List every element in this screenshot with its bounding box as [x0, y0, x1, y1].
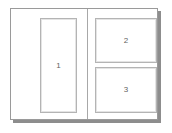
column-divider [87, 9, 88, 119]
layout-outer-frame[interactable]: 1 2 3 [10, 8, 158, 120]
layout-diagram: 1 2 3 [0, 0, 172, 133]
pane-2-label: 2 [124, 37, 128, 45]
layout-pane-1[interactable]: 1 [40, 18, 77, 113]
pane-1-label: 1 [56, 62, 60, 70]
layout-pane-2[interactable]: 2 [95, 18, 157, 63]
pane-3-label: 3 [124, 86, 128, 94]
layout-pane-3[interactable]: 3 [95, 67, 157, 113]
